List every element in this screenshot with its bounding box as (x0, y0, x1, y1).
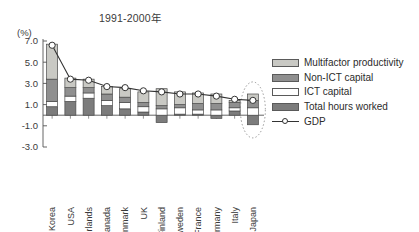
svg-text:Italy: Italy (230, 207, 240, 224)
svg-text:1.0: 1.0 (25, 99, 38, 110)
svg-text:UK: UK (139, 207, 149, 220)
svg-text:Korea: Korea (47, 207, 57, 231)
legend-label: GDP (304, 117, 326, 127)
legend-item-ict-capital[interactable]: ICT capital (272, 85, 418, 100)
legend-item-non-ict-capital[interactable]: Non-ICT capital (272, 71, 418, 86)
svg-text:USA: USA (66, 207, 76, 226)
svg-text:7.0: 7.0 (25, 35, 38, 46)
legend-swatch-light-gray (272, 59, 299, 67)
svg-text:3.0: 3.0 (25, 78, 38, 89)
x-category-labels: KoreaUSANetherlandsCanadaDenmarkUKFinlan… (47, 207, 258, 232)
legend-label: Total hours worked (304, 102, 388, 112)
legend-swatch-mid-gray (272, 74, 299, 82)
svg-text:-3.0: -3.0 (22, 141, 38, 152)
svg-text:Canada: Canada (102, 207, 112, 232)
legend-item-total-hours-worked[interactable]: Total hours worked (272, 100, 418, 115)
legend-line-marker-icon (272, 117, 299, 126)
legend-item-gdp[interactable]: GDP (272, 114, 418, 129)
svg-text:Finland: Finland (157, 207, 167, 232)
legend-label: Non-ICT capital (304, 73, 373, 83)
svg-text:5.0: 5.0 (25, 57, 38, 68)
chart-legend: Multifactor productivityNon-ICT capitalI… (272, 56, 418, 129)
svg-text:Japan: Japan (248, 207, 258, 232)
legend-swatch-white (272, 88, 299, 96)
legend-label: Multifactor productivity (304, 58, 403, 68)
stacked-bars-group (47, 44, 259, 125)
svg-text:France: France (193, 207, 203, 232)
chart-figure: ▁ ▁▁ ▁▁▁ ▁▁ ▁ 1991-2000年 (%) 7.05.03.01.… (0, 0, 419, 232)
legend-swatch-dark-gray (272, 103, 299, 111)
y-tick-labels: 7.05.03.01.0-1.0-3.0 (22, 35, 38, 152)
svg-text:-1.0: -1.0 (22, 120, 38, 131)
legend-label: ICT capital (304, 87, 352, 97)
gdp-line-series (49, 42, 256, 103)
svg-text:Germany: Germany (212, 207, 222, 232)
svg-text:Sweden: Sweden (175, 207, 185, 232)
legend-item-multifactor-productivity[interactable]: Multifactor productivity (272, 56, 418, 71)
svg-text:Denmark: Denmark (120, 207, 130, 232)
svg-text:Netherlands: Netherlands (84, 207, 94, 232)
